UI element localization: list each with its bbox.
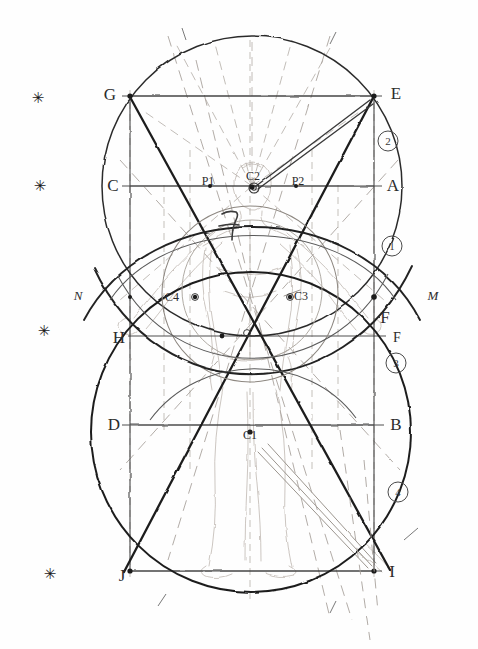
- circled-number-2: 2: [378, 131, 399, 152]
- circled-number-3: 3: [386, 353, 407, 374]
- drawing-canvas: G E C A N M F H F D B J I P1 C2 P2 C4 C3…: [0, 0, 478, 649]
- geometric-construction-svg: [0, 0, 478, 649]
- asterisk-2: ✳: [34, 177, 47, 195]
- circled-number-4: 4: [388, 482, 409, 503]
- asterisk-4: ✳: [44, 565, 57, 583]
- asterisk-1: ✳: [32, 89, 45, 107]
- stroke-E-to-C2: [256, 100, 373, 189]
- figure-underdrawing: [119, 162, 388, 578]
- asterisk-3: ✳: [38, 322, 51, 340]
- diagonal-E-J: [124, 96, 374, 572]
- circled-number-1: 1: [382, 236, 403, 257]
- figure-arm-strokes: [258, 290, 376, 568]
- radiating-construction-lines: [120, 36, 384, 300]
